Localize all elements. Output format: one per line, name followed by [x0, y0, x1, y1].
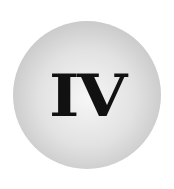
numeral-label: IV [49, 67, 125, 125]
roman-numeral-badge: IV [13, 21, 161, 169]
